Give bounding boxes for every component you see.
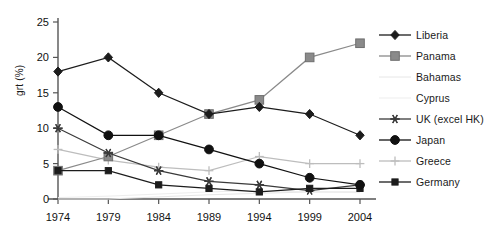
legend-marker-icon bbox=[378, 28, 412, 42]
legend-marker-icon bbox=[378, 91, 412, 105]
data-point bbox=[390, 115, 399, 123]
x-tick-label: 1984 bbox=[146, 211, 170, 223]
data-point bbox=[205, 166, 214, 175]
data-point bbox=[391, 156, 400, 165]
data-point bbox=[204, 177, 213, 185]
x-tick-label: 1979 bbox=[96, 211, 120, 223]
data-point bbox=[305, 159, 314, 168]
data-point bbox=[307, 185, 313, 191]
legend-item-liberia[interactable]: Liberia bbox=[378, 24, 487, 45]
legend-marker-icon bbox=[378, 175, 412, 189]
data-point bbox=[104, 53, 112, 62]
data-point bbox=[391, 51, 400, 60]
data-point bbox=[156, 182, 162, 188]
legend-label: Greece bbox=[416, 155, 451, 167]
data-point bbox=[305, 53, 314, 62]
legend-label: Panama bbox=[416, 50, 456, 62]
x-tick-label: 1999 bbox=[297, 211, 321, 223]
data-point bbox=[392, 178, 398, 184]
data-point bbox=[104, 131, 113, 140]
legend-item-greece[interactable]: Greece bbox=[378, 150, 487, 171]
legend-item-cyprus[interactable]: Cyprus bbox=[378, 87, 487, 108]
data-point bbox=[206, 185, 212, 191]
legend-label: UK (excel HK) bbox=[416, 113, 484, 125]
series-liberia bbox=[54, 53, 364, 140]
y-tick-label: 10 bbox=[37, 122, 49, 134]
legend-label: Cyprus bbox=[416, 92, 450, 104]
legend-marker-icon bbox=[378, 70, 412, 84]
data-point bbox=[305, 109, 313, 118]
data-point bbox=[154, 88, 162, 97]
line-chart: 05101520251974197919841989199419992004 bbox=[0, 0, 380, 246]
legend-marker-icon bbox=[378, 49, 412, 63]
data-point bbox=[391, 30, 399, 39]
data-point bbox=[255, 159, 264, 168]
chart-legend: LiberiaPanamaBahamasCyprusUK (excel HK)J… bbox=[378, 24, 487, 192]
data-point bbox=[256, 189, 262, 195]
x-tick-label: 2004 bbox=[348, 211, 372, 223]
y-tick-label: 15 bbox=[37, 87, 49, 99]
legend-marker-icon bbox=[378, 133, 412, 147]
data-point bbox=[356, 131, 364, 140]
y-axis-title: grt (%) bbox=[14, 36, 25, 96]
plot-area: 05101520251974197919841989199419992004 bbox=[0, 0, 380, 246]
data-point bbox=[356, 159, 365, 168]
series-line bbox=[58, 57, 360, 135]
data-point bbox=[255, 181, 264, 189]
x-tick-label: 1974 bbox=[46, 211, 70, 223]
legend-item-uk-excel-hk[interactable]: UK (excel HK) bbox=[378, 108, 487, 129]
data-point bbox=[54, 145, 63, 154]
data-point bbox=[154, 131, 163, 140]
legend-label: Bahamas bbox=[416, 71, 461, 83]
data-point bbox=[391, 135, 400, 144]
data-point bbox=[105, 168, 111, 174]
x-tick-label: 1994 bbox=[247, 211, 271, 223]
legend-item-bahamas[interactable]: Bahamas bbox=[378, 66, 487, 87]
y-tick-label: 20 bbox=[37, 51, 49, 63]
y-tick-label: 25 bbox=[37, 16, 49, 28]
series-line bbox=[58, 192, 360, 199]
x-tick-label: 1989 bbox=[197, 211, 221, 223]
legend-marker-icon bbox=[378, 112, 412, 126]
legend-item-germany[interactable]: Germany bbox=[378, 171, 487, 192]
series-bahamas bbox=[58, 192, 360, 199]
legend-item-japan[interactable]: Japan bbox=[378, 129, 487, 150]
legend-marker-icon bbox=[378, 154, 412, 168]
y-tick-label: 5 bbox=[43, 158, 49, 170]
legend-label: Germany bbox=[416, 176, 460, 188]
legend-item-panama[interactable]: Panama bbox=[378, 45, 487, 66]
data-point bbox=[55, 168, 61, 174]
chart-container: 05101520251974197919841989199419992004 g… bbox=[0, 0, 487, 246]
legend-label: Japan bbox=[416, 134, 445, 146]
data-point bbox=[54, 67, 62, 76]
data-point bbox=[356, 39, 365, 48]
data-point bbox=[205, 145, 214, 154]
legend-label: Liberia bbox=[416, 29, 448, 41]
y-tick-label: 0 bbox=[43, 193, 49, 205]
data-point bbox=[356, 180, 365, 189]
data-point bbox=[305, 173, 314, 182]
data-point bbox=[54, 103, 63, 112]
